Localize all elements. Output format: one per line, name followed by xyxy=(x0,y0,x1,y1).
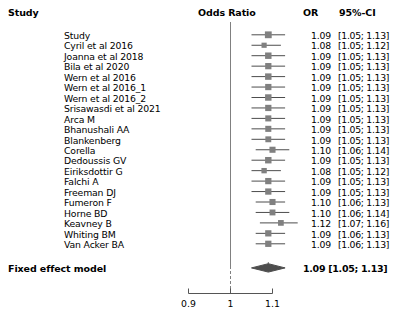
effect-size-marker xyxy=(265,157,271,163)
x-axis-tick-label: 1 xyxy=(228,298,234,309)
effect-size-marker xyxy=(265,230,271,236)
effect-size-marker xyxy=(265,94,271,100)
summary-label: Fixed effect model xyxy=(8,263,106,274)
x-axis-tick-label: 0.9 xyxy=(181,298,196,309)
x-axis-tick-label: 1.1 xyxy=(265,298,280,309)
effect-size-marker xyxy=(265,115,271,121)
effect-size-marker xyxy=(262,43,267,48)
effect-size-marker xyxy=(265,63,271,69)
effect-size-marker xyxy=(265,105,271,111)
effect-size-marker xyxy=(265,126,271,132)
effect-size-marker xyxy=(265,31,272,38)
effect-size-marker xyxy=(269,147,275,153)
effect-size-marker xyxy=(270,210,276,216)
forest-plot: Study Odds Ratio OR 95%-CI Study1.09[1.0… xyxy=(0,0,402,324)
plot-graphics xyxy=(0,0,402,324)
effect-size-marker xyxy=(265,73,271,79)
summary-statistic: 1.09 [1.05; 1.13] xyxy=(303,263,387,274)
effect-size-marker xyxy=(269,199,275,205)
effect-size-marker xyxy=(265,178,271,184)
pooled-effect-diamond xyxy=(252,264,286,272)
effect-size-marker xyxy=(261,168,266,173)
effect-size-marker xyxy=(265,136,271,142)
effect-size-marker xyxy=(278,220,284,226)
effect-size-marker xyxy=(265,84,271,90)
effect-size-marker xyxy=(265,188,271,194)
effect-size-marker xyxy=(265,241,271,247)
effect-size-marker xyxy=(265,52,271,58)
